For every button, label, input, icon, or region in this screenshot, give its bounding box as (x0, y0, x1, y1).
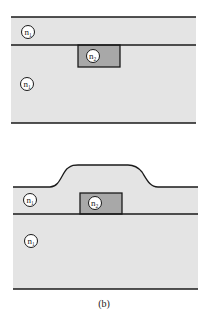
top-cladding-region (11, 17, 196, 123)
top-n2-core-label: n2 (87, 50, 100, 63)
figure-caption: (b) (98, 298, 110, 310)
bottom-cladding-region (13, 165, 198, 289)
top-diagram: n1 n2 n1 (11, 17, 196, 123)
bottom-diagram: n1 n2 n1 (13, 165, 198, 289)
top-n1-upper-label: n1 (22, 26, 35, 39)
waveguide-diagram: n1 n2 n1 n1 n2 n1 (b) (0, 0, 210, 321)
top-n1-substrate-label: n1 (21, 78, 34, 91)
bottom-n1-upper-label: n1 (24, 194, 37, 207)
bottom-n1-substrate-label: n1 (25, 235, 38, 248)
bottom-n2-core-label: n2 (89, 197, 102, 210)
